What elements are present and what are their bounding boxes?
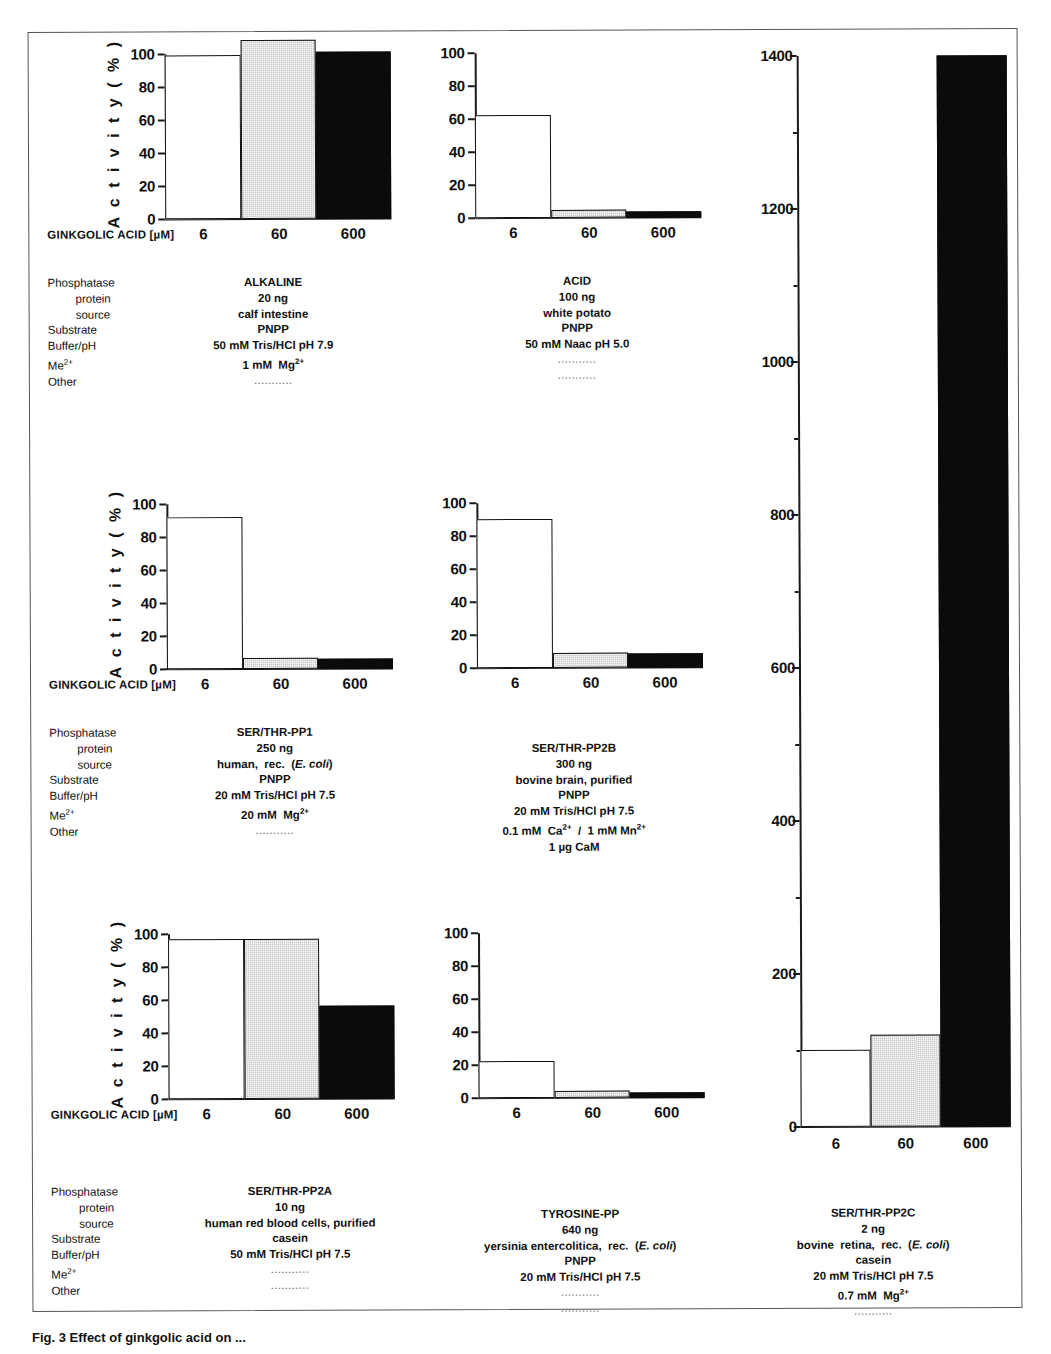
bar-alkaline-6	[165, 55, 242, 219]
ytick-pp1-80: 80	[128, 529, 156, 544]
ytick-acid-20: 20	[437, 177, 465, 192]
value-metal: ...........	[155, 1262, 425, 1279]
ytick-pp2a-20: 20	[130, 1058, 158, 1073]
chart-acid: 0 20 40 60 80 100 6 60 600	[409, 30, 710, 251]
ytick-pp2a-0: 0	[131, 1091, 159, 1106]
value-metal: 20 mM Mg2+	[168, 804, 383, 824]
value-substrate: PNPP	[166, 322, 381, 339]
ytick-60: 60	[127, 112, 155, 127]
label-metal: Me2+	[50, 804, 156, 824]
info-values-pp2b: SER/THR-PP2B 300 ng bovine brain, purifi…	[441, 740, 706, 855]
ytick-acid-80: 80	[437, 78, 465, 93]
xtick-pp2a-60: 60	[255, 1105, 311, 1122]
info-values-pp1: SER/THR-PP1 250 ng human, rec. (E. coli)…	[167, 725, 382, 840]
label-phosphatase: Phosphatase	[49, 725, 155, 741]
ytick-acid-100: 100	[429, 45, 465, 60]
y-axis-tyr: 0 20 40 60 80 100	[412, 910, 712, 911]
y-axis-alkaline: 0 20 40 60 80 100	[29, 32, 349, 33]
ytick-pp2c-1400: 1400	[723, 48, 793, 63]
info-row-labels-pp1: Phosphatase protein source Substrate Buf…	[49, 725, 155, 840]
value-buffer: 50 mM Naac pH 5.0	[450, 336, 705, 353]
info-values-tyr: TYROSINE-PP 640 ng yersinia entercolitic…	[435, 1206, 725, 1318]
info-table-pp2c: SER/THR-PP2C 2 ng bovine retina, rec. (E…	[743, 1205, 1023, 1326]
value-other: ...........	[450, 368, 705, 385]
value-buffer: 20 mM Tris/HCl pH 7.5	[435, 1269, 725, 1286]
info-values-pp2c: SER/THR-PP2C 2 ng bovine retina, rec. (E…	[743, 1205, 1003, 1320]
xtick-pp2b-60: 60	[563, 674, 619, 691]
info-table-pp2a: Phosphatase protein source Substrate Buf…	[51, 1183, 441, 1304]
label-source: source	[51, 1216, 157, 1232]
xtick-pp2b-6: 6	[487, 674, 543, 691]
xtick-alkaline-600: 600	[325, 225, 381, 242]
ytick-tyr-40: 40	[440, 1024, 468, 1039]
label-metal: Me2+	[51, 1263, 157, 1283]
xtick-pp2a-600: 600	[329, 1105, 385, 1122]
bar-pp2b-60	[553, 653, 628, 668]
xtick-pp1-6: 6	[177, 675, 233, 692]
ytick-20: 20	[127, 178, 155, 193]
value-buffer: 50 mM Tris/HCl pH 7.5	[155, 1247, 425, 1264]
value-substrate: casein	[743, 1253, 1003, 1270]
label-other: Other	[48, 374, 154, 390]
xtick-pp1-60: 60	[253, 675, 309, 692]
label-substrate: Substrate	[48, 323, 154, 339]
ytick-tyr-20: 20	[440, 1057, 468, 1072]
value-metal: ...........	[435, 1285, 725, 1302]
ytick-acid-0: 0	[437, 210, 465, 225]
value-buffer: 20 mM Tris/HCl pH 7.5	[442, 803, 707, 820]
value-source: bovine retina, rec. (E. coli)	[743, 1237, 1003, 1254]
y-axis-pp2b: 0 20 40 60 80 100	[410, 480, 710, 481]
y-axis-label-pp2a: A c t i v i t y ( % )	[108, 919, 127, 1109]
value-protein: 300 ng	[441, 756, 706, 773]
bar-tyr-60	[555, 1091, 630, 1098]
value-source: human red blood cells, purified	[155, 1215, 425, 1232]
xtick-tyr-600: 600	[639, 1103, 695, 1120]
chart-ser-thr-pp2a: A c t i v i t y ( % ) 0 20 40 60 80 100 …	[32, 912, 353, 1133]
value-protein: 20 ng	[166, 290, 381, 307]
value-protein: 640 ng	[435, 1222, 725, 1239]
info-row-labels-pp2a: Phosphatase protein source Substrate Buf…	[51, 1184, 157, 1299]
value-substrate: PNPP	[441, 788, 706, 805]
value-phosphatase: SER/THR-PP1	[167, 725, 382, 742]
xtick-pp2c-6: 6	[808, 1135, 864, 1152]
info-table-pp1: Phosphatase protein source Substrate Buf…	[49, 725, 389, 846]
label-protein: protein	[48, 291, 154, 307]
xtick-pp1-600: 600	[327, 675, 383, 692]
value-source: bovine brain, purified	[441, 772, 706, 789]
xtick-pp2b-600: 600	[637, 673, 693, 690]
ytick-pp1-0: 0	[129, 661, 157, 676]
value-other: 1 µg CaM	[442, 839, 707, 856]
ytick-pp2b-60: 60	[439, 561, 467, 576]
ytick-pp2a-80: 80	[130, 959, 158, 974]
xtick-tyr-6: 6	[489, 1104, 545, 1121]
bar-pp2a-6	[168, 939, 245, 1099]
chart-alkaline: A c t i v i t y ( % ) 0 20 40 60 80 100 …	[29, 32, 350, 253]
value-metal: ...........	[450, 352, 705, 369]
bar-acid-600	[626, 211, 701, 217]
value-source: human, rec. (E. coli)	[167, 756, 382, 773]
value-phosphatase: ALKALINE	[165, 275, 380, 292]
y-axis-label-pp1: A c t i v i t y ( % )	[106, 489, 125, 679]
info-values-alkaline: ALKALINE 20 ng calf intestine PNPP 50 mM…	[165, 275, 380, 390]
value-phosphatase: SER/THR-PP2B	[441, 740, 706, 757]
bar-tyr-6	[479, 1061, 555, 1098]
value-buffer: 20 mM Tris/HCl pH 7.5	[743, 1268, 1003, 1285]
xtick-alkaline-6: 6	[175, 225, 231, 242]
value-source: yersinia entercolitica, rec. (E. coli)	[435, 1238, 725, 1255]
info-row-labels-alkaline: Phosphatase protein source Substrate Buf…	[47, 275, 153, 390]
info-table-tyr: TYROSINE-PP 640 ng yersinia entercolitic…	[435, 1206, 765, 1327]
value-protein: 10 ng	[155, 1199, 425, 1216]
value-protein: 250 ng	[167, 740, 382, 757]
ytick-pp1-100: 100	[120, 496, 156, 511]
label-phosphatase: Phosphatase	[47, 275, 153, 291]
value-substrate: PNPP	[450, 321, 705, 338]
value-other: ...........	[166, 373, 381, 390]
ytick-tyr-60: 60	[440, 991, 468, 1006]
xtick-acid-600: 600	[635, 223, 691, 240]
x-axis-prefix-pp1: GINKGOLIC ACID [µM]	[49, 678, 176, 690]
ytick-pp2c-1000: 1000	[724, 354, 794, 369]
ytick-pp2a-100: 100	[122, 926, 158, 941]
label-buffer: Buffer/pH	[49, 789, 155, 805]
y-axis-acid: 0 20 40 60 80 100	[409, 30, 709, 31]
ytick-pp2c-400: 400	[736, 813, 796, 828]
